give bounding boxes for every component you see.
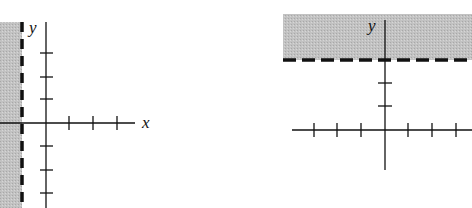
graphs-canvas: y x y: [0, 0, 472, 208]
right-shaded-region: [283, 14, 472, 60]
right-graph: y: [283, 14, 472, 170]
left-y-axis-label: y: [27, 18, 37, 37]
left-graph: y x: [0, 18, 150, 208]
right-y-axis-label: y: [366, 16, 376, 35]
left-shaded-region: [0, 22, 22, 208]
left-x-axis-label: x: [141, 113, 150, 132]
